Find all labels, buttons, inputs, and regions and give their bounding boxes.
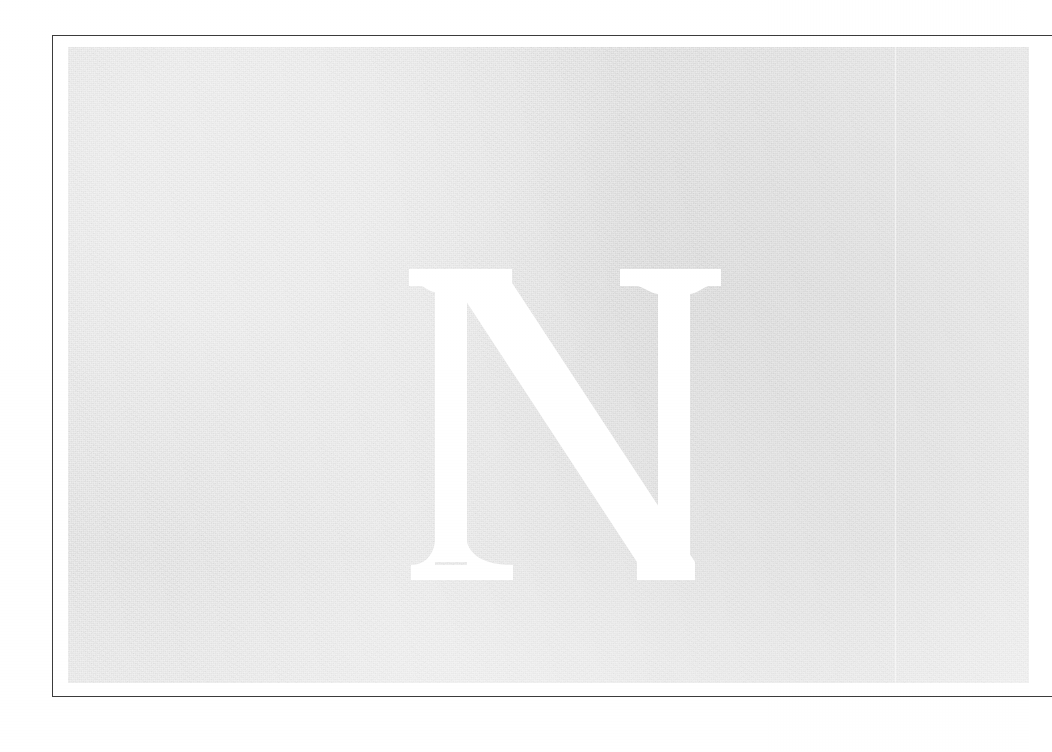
- dropcap-letter-n: N: [405, 262, 725, 587]
- dropcap-letter-text: N: [405, 587, 406, 588]
- illustration-plate: N: [68, 47, 1029, 683]
- scan-seam-line: [895, 47, 896, 683]
